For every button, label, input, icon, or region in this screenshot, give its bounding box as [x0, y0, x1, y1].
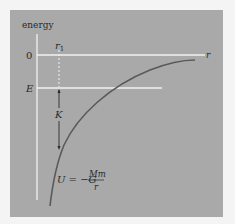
energy-diagram: energy 0 E r1 r K U = −G Mm r: [0, 0, 235, 224]
energy-level-label: E: [25, 83, 34, 94]
kinetic-label: K: [54, 109, 63, 120]
r1-label: r1: [55, 40, 64, 53]
y-axis-label: energy: [22, 20, 55, 30]
arrow-up-icon: [58, 89, 61, 93]
equation-numerator: Mm: [88, 169, 106, 179]
zero-label: 0: [26, 50, 32, 61]
x-axis-label: r: [206, 50, 211, 60]
arrow-down-icon: [58, 146, 61, 150]
equation-denominator: r: [94, 182, 99, 192]
